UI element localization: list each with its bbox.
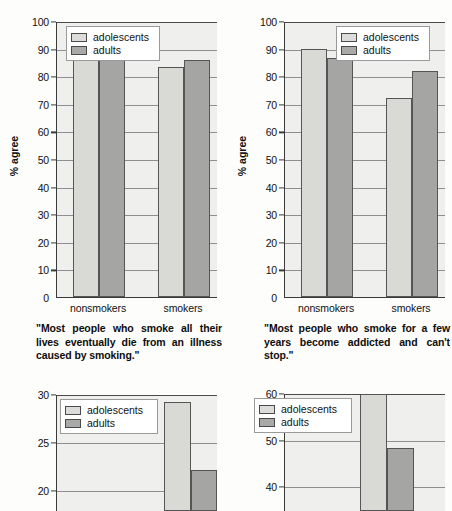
bar-panel-b-nonsmokers-adolescents [301, 49, 327, 297]
panel-a-legend-row-adolescents: adolescents [71, 31, 153, 43]
panel-b-legend: adolescents adults [336, 26, 430, 61]
panel-b-ytick-90: 90 [247, 44, 277, 56]
panel-b-legend-row-adolescents: adolescents [341, 31, 423, 43]
bar-panel-d-smokers-adolescents [360, 394, 387, 511]
panel-c-ytick-20: 20 [19, 485, 49, 497]
figure-page: % agree 100 90 80 70 60 50 40 30 20 10 0 [0, 0, 452, 511]
panel-b-ytick-80: 80 [247, 71, 277, 83]
panel-a-legend-label-adolescents: adolescents [93, 32, 149, 43]
panel-d-legend-label-adults: adults [281, 417, 309, 428]
legend-swatch-adults-icon [65, 419, 81, 428]
panel-b-legend-row-adults: adults [341, 44, 423, 56]
panel-a-plot-area [56, 22, 217, 298]
panel-c-gridline [57, 443, 217, 444]
panel-b-ytick-20: 20 [247, 237, 277, 249]
legend-swatch-adults-icon [341, 46, 357, 55]
panel-b-ytick-0: 0 [247, 292, 277, 304]
panel-a-xlabel-smokers: smokers [164, 302, 203, 314]
bar-panel-d-smokers-adults [387, 448, 414, 511]
panel-b-plot-area [284, 22, 445, 298]
panel-d-legend: adolescents adults [254, 398, 352, 433]
legend-swatch-adolescents-icon [71, 33, 87, 42]
panel-c-legend-row-adults: adults [65, 417, 151, 429]
panel-a-ytick-80: 80 [19, 71, 49, 83]
bar-panel-c-smokers-adolescents [164, 402, 191, 511]
panel-a-ytick-70: 70 [19, 99, 49, 111]
panel-c-legend-label-adolescents: adolescents [87, 405, 143, 416]
bar-panel-c-smokers-adults [191, 470, 217, 511]
panel-b-ytick-60: 60 [247, 126, 277, 138]
panel-c-ytick-30: 30 [19, 389, 49, 401]
bar-panel-b-smokers-adults [412, 71, 438, 297]
legend-swatch-adults-icon [259, 418, 275, 427]
panel-a-legend: adolescents adults [66, 26, 160, 61]
panel-a-ytick-10: 10 [19, 264, 49, 276]
panel-c-legend-row-adolescents: adolescents [65, 404, 151, 416]
legend-swatch-adolescents-icon [259, 405, 275, 414]
panel-a-ytick-20: 20 [19, 237, 49, 249]
panel-d-legend-label-adolescents: adolescents [281, 404, 337, 415]
panel-a-caption: "Most people who smoke all their lives e… [36, 322, 222, 363]
panel-d-ytick-40: 40 [247, 481, 277, 493]
bar-panel-a-smokers-adolescents [158, 67, 184, 298]
panel-d-ytick-50: 50 [247, 435, 277, 447]
panel-c-legend: adolescents adults [60, 399, 158, 434]
panel-b-ytick-10: 10 [247, 264, 277, 276]
panel-a-legend-row-adults: adults [71, 44, 153, 56]
bar-panel-a-smokers-adults [184, 60, 210, 297]
panel-c-legend-label-adults: adults [87, 418, 115, 429]
panel-b-legend-label-adults: adults [363, 45, 391, 56]
chart-panel-c: 30 25 20 adolescents adults [0, 370, 226, 511]
chart-panel-a: % agree 100 90 80 70 60 50 40 30 20 10 0 [0, 0, 226, 370]
panel-a-ytick-40: 40 [19, 182, 49, 194]
chart-panel-d: 60 50 40 adolescents adults [226, 370, 452, 511]
panel-a-axis-top [57, 22, 217, 23]
panel-d-legend-row-adolescents: adolescents [259, 403, 345, 415]
legend-swatch-adolescents-icon [341, 33, 357, 42]
panel-b-caption: "Most people who smoke for a few years b… [264, 322, 450, 363]
bar-panel-a-nonsmokers-adolescents [73, 58, 99, 297]
panel-c-axis-top [57, 395, 217, 396]
panel-a-ytick-90: 90 [19, 44, 49, 56]
legend-swatch-adults-icon [71, 46, 87, 55]
panel-a-ytick-50: 50 [19, 154, 49, 166]
bar-panel-a-nonsmokers-adults [99, 60, 125, 297]
bar-panel-b-nonsmokers-adults [327, 58, 353, 297]
panel-b-ytick-100: 100 [247, 16, 277, 28]
panel-d-legend-row-adults: adults [259, 416, 345, 428]
panel-a-xlabel-nonsmokers: nonsmokers [70, 302, 126, 314]
panel-a-legend-label-adults: adults [93, 45, 121, 56]
bar-panel-b-smokers-adolescents [386, 98, 412, 297]
panel-a-ytick-100: 100 [19, 16, 49, 28]
panel-b-ytick-50: 50 [247, 154, 277, 166]
panel-b-ytick-70: 70 [247, 99, 277, 111]
panel-b-xlabel-nonsmokers: nonsmokers [298, 302, 354, 314]
panel-b-ytick-40: 40 [247, 182, 277, 194]
panel-a-ytick-60: 60 [19, 126, 49, 138]
panel-c-ytick-25: 25 [19, 437, 49, 449]
panel-b-ytick-30: 30 [247, 209, 277, 221]
panel-a-ytick-0: 0 [19, 292, 49, 304]
panel-b-xlabel-smokers: smokers [392, 302, 431, 314]
chart-panel-b: % agree 100 90 80 70 60 50 40 30 20 10 0 [226, 0, 452, 370]
legend-swatch-adolescents-icon [65, 406, 81, 415]
panel-b-axis-top [285, 22, 445, 23]
panel-b-legend-label-adolescents: adolescents [363, 32, 419, 43]
panel-a-ytick-30: 30 [19, 209, 49, 221]
